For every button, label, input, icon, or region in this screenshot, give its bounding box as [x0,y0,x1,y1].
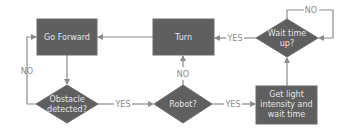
node-robot: Robot? [154,85,212,123]
node-go-forward: Go Forward [37,19,97,55]
node-wait-time-up: Wait time up? [256,19,318,57]
node-label-line-1: Obstacle [49,95,84,104]
edge-wait-no-b [319,10,333,38]
node-get-light: Get light intensity and wait time [256,86,317,124]
label-obstacle-yes: YES [114,100,130,109]
node-label: Go Forward [44,33,90,42]
node-label: Turn [174,33,192,42]
flowchart: NO YES NO YES YES NO Go Forward Turn Wai… [0,0,353,133]
node-label-line-3: wait time [268,110,306,119]
node-turn: Turn [153,19,214,55]
label-wait-yes: YES [226,34,242,43]
label-robot-yes: YES [224,100,240,109]
edge-wait-no-a [287,10,304,19]
node-label-line-2: detected? [47,105,87,114]
label-obstacle-no: NO [21,67,33,76]
label-robot-no: NO [177,70,189,79]
node-label: Robot? [169,100,196,109]
node-label-line-1: Get light [269,90,304,99]
node-label-line-2: intensity and [260,100,312,109]
node-obstacle-detected: Obstacle detected? [36,85,98,123]
node-label-line-1: Wait time [268,29,306,38]
label-wait-no: NO [305,6,317,15]
node-label-line-2: up? [280,39,294,48]
decision-diamond [36,85,98,123]
decision-diamond [256,19,318,57]
